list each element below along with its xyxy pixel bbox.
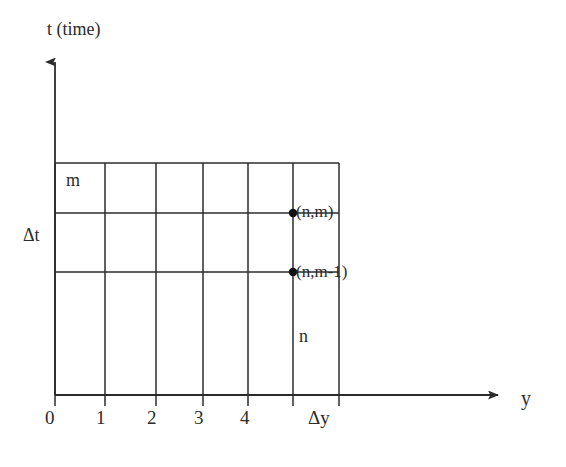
axis-lines (55, 62, 498, 395)
figure-canvas: t (time) y Δt m n (n,m) (n,m-1) 0 1 2 3 … (0, 0, 566, 467)
x-tick-label-delta-y: Δy (308, 408, 330, 427)
delta-t-label: Δt (23, 226, 40, 244)
point-label-n-m-minus-1: (n,m-1) (296, 263, 347, 280)
point-label-n-m: (n,m) (296, 203, 333, 220)
row-index-label-m: m (66, 171, 80, 189)
x-tick-label-2: 2 (147, 408, 157, 427)
grid-vertical-lines (55, 163, 339, 406)
x-tick-label-0: 0 (45, 408, 55, 427)
x-tick-label-3: 3 (194, 408, 204, 427)
x-tick-label-4: 4 (240, 408, 250, 427)
grid-diagram-svg (0, 0, 566, 467)
t-axis-label: t (time) (47, 20, 100, 38)
y-axis-label: y (521, 388, 531, 408)
column-index-label-n: n (299, 327, 308, 345)
x-tick-label-1: 1 (96, 408, 106, 427)
